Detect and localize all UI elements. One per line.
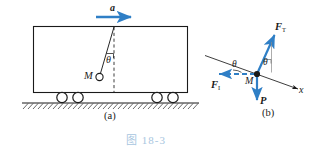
pendulum-string — [100, 27, 114, 75]
weight-force-label: P — [260, 96, 266, 107]
tension-force-label: FT — [275, 22, 286, 33]
panel-a-tag: (a) — [104, 110, 116, 121]
cart-wheels — [57, 92, 178, 102]
ground-hatching — [23, 104, 198, 110]
acceleration-label: a — [110, 3, 115, 13]
physics-figure: a θ M (a) FT FI P M θ θ x (b) 图 18-3 — [0, 0, 326, 154]
angle-label-a: θ — [106, 55, 111, 65]
mass-label-a: M — [84, 71, 93, 82]
angle-marker-b-left — [233, 70, 242, 72]
figure-caption: 图 18-3 — [126, 131, 166, 147]
wheel — [73, 92, 83, 102]
tension-force-subscript: T — [282, 26, 286, 33]
wheel — [57, 92, 67, 102]
angle-label-b-left: θ — [232, 60, 237, 70]
panel-b-tag: (b) — [262, 107, 274, 118]
wheel — [152, 92, 162, 102]
inertial-force-label: FI — [211, 80, 220, 91]
x-axis-label: x — [299, 85, 303, 95]
tension-force-arrow — [257, 35, 275, 74]
inertial-force-symbol: F — [211, 79, 218, 90]
pendulum-bob — [96, 73, 103, 80]
angle-label-b-right: θ — [263, 58, 268, 68]
mass-label-b: M — [245, 76, 253, 86]
tension-force-symbol: F — [275, 21, 282, 32]
inertial-force-subscript: I — [218, 84, 220, 91]
point-mass-bob — [254, 71, 260, 77]
wheel — [168, 92, 178, 102]
